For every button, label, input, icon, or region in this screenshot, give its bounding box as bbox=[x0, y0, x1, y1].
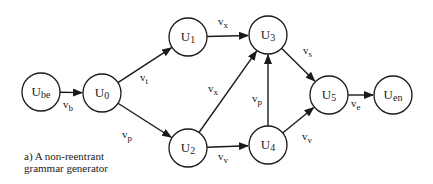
edge-label: vx bbox=[208, 82, 219, 97]
edge-label: vx bbox=[218, 15, 229, 30]
edge-label: vs bbox=[303, 44, 313, 59]
edge-label: vt bbox=[140, 71, 149, 86]
node-u1: U1 bbox=[169, 18, 207, 56]
caption-line-2: grammar generator bbox=[24, 162, 108, 174]
edge-label: vb bbox=[63, 98, 74, 113]
edge-label: vv bbox=[218, 150, 229, 165]
edge-u2-to-u4-arrow-icon bbox=[207, 146, 248, 148]
edge-label: ve bbox=[351, 97, 361, 112]
node-uen: Uen bbox=[374, 76, 412, 114]
node-u3: U3 bbox=[249, 16, 287, 54]
caption-line-1: a) A non-reentrant bbox=[24, 150, 108, 162]
node-u5: U5 bbox=[310, 76, 348, 114]
edge-label: vp bbox=[122, 128, 133, 143]
figure-caption: a) A non-reentrant grammar generator bbox=[24, 150, 108, 174]
node-ube: Ube bbox=[22, 73, 60, 111]
edge-label: vp bbox=[252, 92, 263, 107]
edge-u4-to-u5-arrow-icon bbox=[283, 108, 314, 133]
node-u4: U4 bbox=[249, 126, 287, 164]
node-u0: U0 bbox=[83, 74, 121, 112]
edge-u1-to-u3-arrow-icon bbox=[207, 35, 248, 36]
node-u2: U2 bbox=[169, 129, 207, 167]
edge-label: vv bbox=[302, 130, 313, 145]
